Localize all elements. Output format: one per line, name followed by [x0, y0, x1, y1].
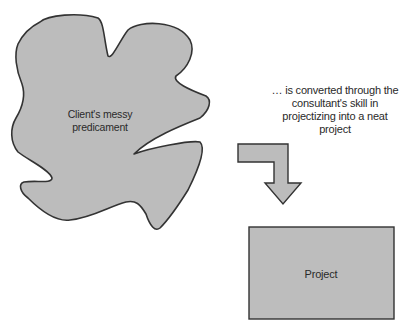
messy-predicament-label: Client's messy predicament [55, 108, 145, 134]
conversion-arrow-icon [238, 144, 301, 204]
diagram-canvas [0, 0, 404, 334]
conversion-caption: … is converted through the consultant's … [266, 84, 404, 136]
project-label: Project [248, 268, 394, 281]
